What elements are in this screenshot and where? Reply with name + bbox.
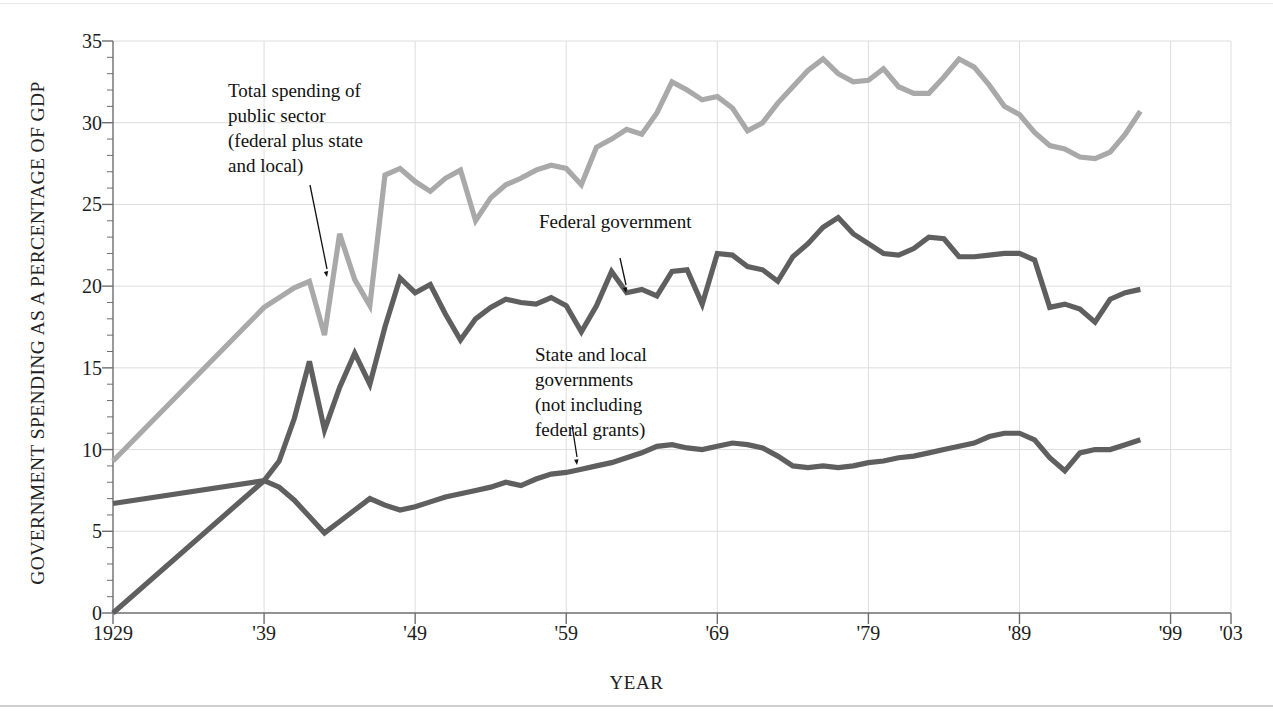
arrow-total-spending [310, 185, 328, 277]
series-line-state-local [113, 433, 1140, 533]
chart-figure: GOVERNMENT SPENDING AS A PERCENTAGE OF G… [0, 0, 1273, 718]
annotation-state-local-governments: State and local governments (not includi… [535, 342, 647, 442]
annotation-federal-government: Federal government [539, 209, 691, 234]
annotation-total-spending: Total spending of public sector (federal… [228, 78, 363, 178]
